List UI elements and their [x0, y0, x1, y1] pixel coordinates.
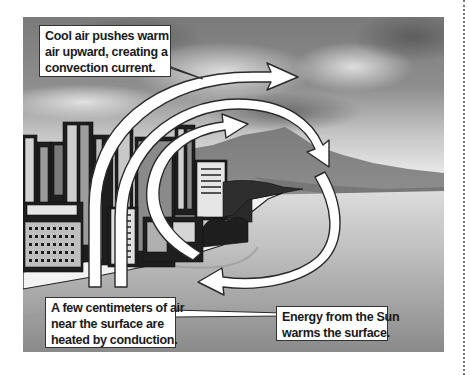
cool-air-label-line-2: air upward, creating a: [45, 44, 165, 60]
cool-air-label: Cool air pushes warm air upward, creatin…: [39, 25, 171, 77]
conduction-label: A few centimeters of air near the surfac…: [45, 297, 176, 348]
conduction-label-line-1: A few centimeters of air: [51, 300, 170, 316]
sun-energy-label-line-1: Energy from the Sun: [282, 309, 382, 325]
sun-energy-label-line-2: warms the surface.: [282, 325, 382, 341]
conduction-label-line-2: near the surface are: [51, 316, 170, 332]
conduction-label-line-3: heated by conduction.: [51, 332, 170, 348]
cool-air-label-line-1: Cool air pushes warm: [45, 28, 165, 44]
cool-air-label-line-3: convection current.: [45, 60, 165, 76]
page-margin-rule: [463, 0, 465, 375]
page: Cool air pushes warm air upward, creatin…: [0, 0, 470, 375]
sun-energy-label: Energy from the Sun warms the surface.: [276, 306, 388, 341]
